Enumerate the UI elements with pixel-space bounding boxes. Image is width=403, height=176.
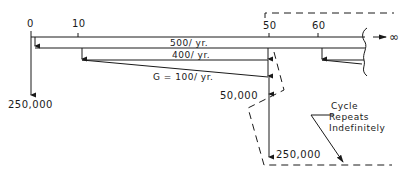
tick-label-10: 10 bbox=[72, 19, 86, 29]
label-cost-250k: 250,000 bbox=[276, 150, 321, 160]
tick-label-60: 60 bbox=[312, 21, 326, 31]
break-line bbox=[363, 28, 367, 76]
annotation-line-1: Cycle bbox=[331, 102, 358, 111]
cycle2-gradient bbox=[322, 60, 362, 64]
annotation-line-2: Repeats bbox=[329, 113, 369, 122]
label-400-per-year: 400/ yr. bbox=[172, 51, 210, 60]
infinity-label: ∞ bbox=[389, 31, 400, 43]
cash-flow-diagram bbox=[0, 0, 403, 176]
tick-label-0: 0 bbox=[27, 19, 34, 29]
label-gradient: G = 100/ yr. bbox=[153, 73, 213, 82]
label-initial-cost: 250,000 bbox=[8, 100, 53, 110]
annotation-line-3: Indefinitely bbox=[329, 124, 385, 133]
tick-label-50: 50 bbox=[263, 21, 277, 31]
label-cost-50k: 50,000 bbox=[220, 91, 258, 101]
label-500-per-year: 500/ yr. bbox=[170, 39, 208, 48]
cycle-bracket-dashed bbox=[248, 13, 394, 165]
